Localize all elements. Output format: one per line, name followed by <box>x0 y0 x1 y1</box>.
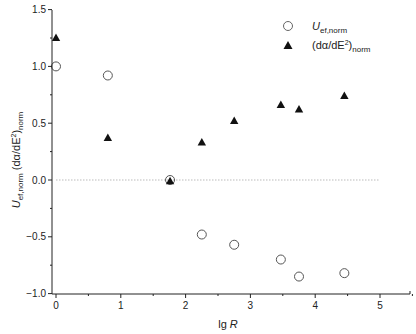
y-axis-title: Uef,norm (dα/dE2)norm <box>10 111 25 208</box>
data-point-circle <box>295 272 304 281</box>
scatter-chart: 1.51.00.50.0−0.5−1.0012345 Uef,norm (dα/… <box>0 0 416 334</box>
data-point-circle <box>103 71 112 80</box>
x-tick-label: 3 <box>248 300 254 311</box>
x-axis-title: lg R <box>218 318 238 330</box>
data-point-circle <box>276 255 285 264</box>
y-tick-label: −1.0 <box>26 288 46 299</box>
data-point-circle <box>52 62 61 71</box>
x-tick-label: 4 <box>312 300 318 311</box>
y-tick-label: 1.0 <box>32 61 46 72</box>
x-tick-label: 0 <box>53 300 59 311</box>
data-point-triangle <box>277 101 285 109</box>
x-tick-label: 2 <box>183 300 189 311</box>
legend-label-uef: Uef,norm <box>312 20 347 35</box>
data-point-triangle <box>198 138 206 146</box>
y-tick-label: 0.0 <box>32 175 46 186</box>
y-tick-label: −0.5 <box>26 231 46 242</box>
data-point-circle <box>340 269 349 278</box>
data-point-triangle <box>295 105 303 113</box>
data-point-triangle <box>104 133 112 141</box>
legend-triangle-marker <box>284 41 293 49</box>
x-tick-label: 1 <box>118 300 124 311</box>
x-tick-label: 5 <box>377 300 383 311</box>
plot-area <box>52 34 381 282</box>
y-tick-label: 1.5 <box>32 4 46 15</box>
legend: Uef,norm (dα/dE2)norm <box>284 20 371 54</box>
data-point-triangle <box>230 116 238 124</box>
data-point-circle <box>230 240 239 249</box>
data-point-triangle <box>52 34 60 42</box>
data-point-circle <box>197 230 206 239</box>
legend-label-dalpha: (dα/dE2)norm <box>312 39 371 54</box>
legend-circle-marker <box>284 22 293 31</box>
y-tick-label: 0.5 <box>32 118 46 129</box>
data-point-triangle <box>340 91 348 99</box>
